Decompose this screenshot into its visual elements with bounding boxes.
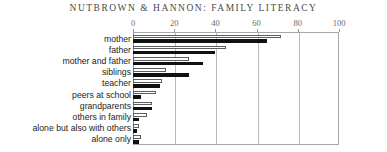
bar-open: [133, 57, 189, 61]
running-head: NUTBROWN & HANNON: FAMILY LITERACY: [0, 3, 387, 13]
bar-solid: [133, 95, 141, 99]
bar-open: [133, 91, 156, 95]
chart-row: others in family: [0, 112, 387, 123]
category-label: mother and father: [3, 56, 131, 67]
bar-solid: [133, 51, 215, 55]
bar-solid: [133, 129, 137, 133]
category-label: father: [3, 45, 131, 56]
x-tick-label: 80: [294, 18, 303, 28]
x-tick-label: 0: [131, 18, 135, 28]
x-tick-label: 60: [252, 18, 261, 28]
chart-row: mother: [0, 34, 387, 45]
bar-open: [133, 68, 166, 72]
chart-row: grandparents: [0, 101, 387, 112]
bar-solid: [133, 140, 139, 144]
category-label: siblings: [3, 67, 131, 78]
chart-row: teacher: [0, 78, 387, 89]
category-label: teacher: [3, 78, 131, 89]
x-tick-label: 40: [211, 18, 220, 28]
category-label: peers at school: [3, 90, 131, 101]
category-label: alone but also with others: [3, 123, 131, 134]
chart-row: alone but also with others: [0, 123, 387, 134]
bar-solid: [133, 118, 139, 122]
category-label: others in family: [3, 112, 131, 123]
bar-solid: [133, 84, 160, 88]
bar-open: [133, 79, 162, 83]
x-tick-label: 100: [333, 18, 346, 28]
figure-page: NUTBROWN & HANNON: FAMILY LITERACY 02040…: [0, 0, 387, 152]
bar-open: [133, 35, 281, 39]
x-tick-mark: [339, 29, 340, 32]
x-tick-label: 20: [170, 18, 179, 28]
bar-solid: [133, 39, 267, 43]
chart-row: peers at school: [0, 90, 387, 101]
bar-open: [133, 113, 147, 117]
bar-solid: [133, 107, 152, 111]
bar-open: [133, 135, 141, 139]
chart-row: mother and father: [0, 56, 387, 67]
bar-solid: [133, 73, 189, 77]
bar-open: [133, 102, 152, 106]
bar-chart: 020406080100 motherfathermother and fath…: [0, 18, 387, 152]
bar-open: [133, 124, 139, 128]
bar-open: [133, 46, 226, 50]
category-label: alone only: [3, 134, 131, 145]
chart-row: siblings: [0, 67, 387, 78]
chart-row: alone only: [0, 134, 387, 145]
bar-solid: [133, 62, 203, 66]
category-label: grandparents: [3, 101, 131, 112]
chart-row: father: [0, 45, 387, 56]
category-label: mother: [3, 34, 131, 45]
